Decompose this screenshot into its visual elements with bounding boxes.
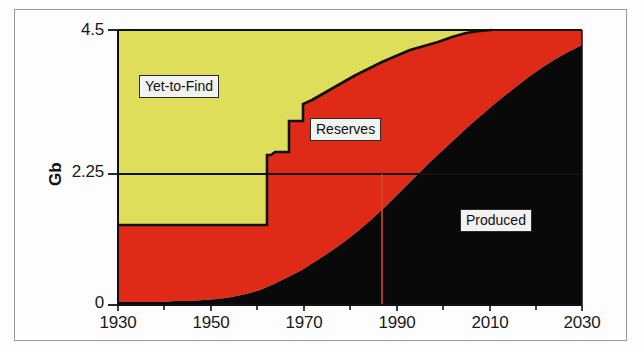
- series-label-produced: Produced: [460, 209, 532, 232]
- series-label-yet-to-find: Yet-to-Find: [139, 75, 219, 98]
- stacked-area-plot: [0, 0, 641, 345]
- y-axis-ticks: [108, 30, 118, 305]
- series-label-reserves: Reserves: [310, 118, 381, 141]
- chart-figure: Gb 4.5 2.25 0 1930 1950 1970 1990 2010 2…: [0, 0, 641, 345]
